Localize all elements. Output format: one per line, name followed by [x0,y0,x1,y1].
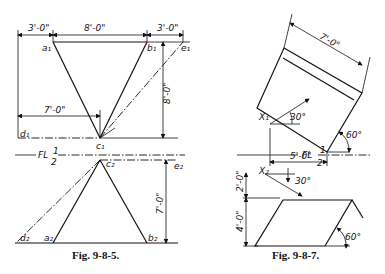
fl-top: 1 [320,145,326,155]
dim-right: 3'-0" [157,23,178,33]
dim-lower: 7'-0" [44,105,65,115]
angle-30-front: 30° [295,176,311,186]
fl-label: FL [38,150,48,160]
point-d1: d₁ [20,129,30,139]
dim-middle: 8'-0" [84,23,105,33]
point-x1: X₁ [258,112,269,122]
point-e1: e₁ [181,43,191,53]
figure-caption: Fig. 9-8-5. [72,249,120,261]
angle-30-top: 30° [290,112,306,122]
point-d2: d₂ [20,233,30,243]
point-e2: e₂ [174,161,184,171]
fl-bottom: 2 [317,158,323,168]
fl-bottom: 2 [51,157,57,167]
point-x2: X₂ [258,166,269,176]
dim-left: 3'-0" [28,23,49,33]
fig-9-8-5-top-view: 3'-0" 8'-0" 3'-0" a₁ b₁ e₁ 7'-0" 8'-0" d… [18,23,191,151]
dim-front-height: 7'-0" [155,193,165,214]
dim-upper: 2'-0" [235,171,245,192]
point-a2: a₂ [44,233,54,243]
fl-top: 1 [53,146,59,156]
fig-9-8-7-top-view: 7'-0" X₁ 30° 60° 5'-0" [257,14,370,166]
point-a1: a₁ [42,43,52,53]
dim-lower: 4'-0" [235,211,245,232]
point-b1: b₁ [147,43,157,53]
point-b2: b₂ [148,233,158,243]
angle-60-top: 60° [346,130,362,140]
fig-9-8-7-folding-line: FL 1 2 [237,145,372,168]
point-c1: c₁ [96,141,105,151]
dim-height: 8'-0" [162,83,172,104]
fl-label: FL [302,150,312,160]
angle-60-front: 60° [345,232,361,242]
fig-9-8-5-front-view: c₂ e₂ 7'-0" d₂ a₂ b₂ Fig. 9-8-5. [15,159,184,261]
figure-caption: Fig. 9-8-7. [272,249,320,261]
dim-width: 7'-0" [318,31,341,50]
point-c2: c₂ [106,159,115,169]
fig-9-8-7-front-view: X₂ 30° 2'-0" 4'-0" 60° Fig. 9-8-7. [235,166,363,261]
drawing-canvas: 3'-0" 8'-0" 3'-0" a₁ b₁ e₁ 7'-0" 8'-0" d… [0,0,385,274]
